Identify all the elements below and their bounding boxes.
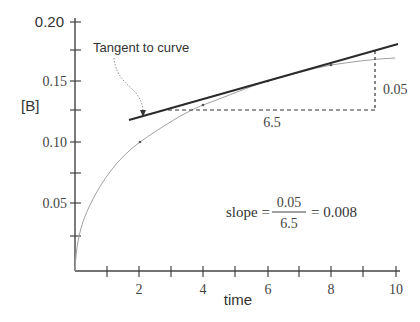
slope-numerator: 0.05 bbox=[277, 195, 302, 210]
x-tick-label-6: 6 bbox=[265, 282, 272, 297]
run-label: 6.5 bbox=[263, 115, 281, 130]
x-tick-label-4: 4 bbox=[200, 282, 207, 297]
y-axis-label: [B] bbox=[21, 97, 39, 114]
slope-prefix: slope = bbox=[226, 204, 270, 220]
slope-denominator: 6.5 bbox=[280, 216, 298, 231]
slope-result: = 0.008 bbox=[311, 204, 357, 220]
y-tick-label-0.05: 0.05 bbox=[43, 196, 68, 211]
x-tick-label-2: 2 bbox=[136, 282, 143, 297]
tangent-line bbox=[129, 44, 398, 120]
tangent-pointer-arrow-shaft bbox=[114, 58, 143, 112]
tangent-annotation: Tangent to curve bbox=[93, 40, 189, 55]
rise-label: 0.05 bbox=[383, 82, 408, 97]
y-tick-label-0.20: 0.20 bbox=[35, 13, 64, 30]
y-tick-label-0.15: 0.15 bbox=[43, 74, 68, 89]
y-tick-label-0.10: 0.10 bbox=[43, 135, 68, 150]
chart-figure: 0.20 0.15 0.10 0.05 2 4 6 8 10 [B] time … bbox=[0, 0, 420, 322]
x-tick-label-10: 10 bbox=[389, 282, 403, 297]
curve-markers bbox=[139, 64, 333, 144]
x-tick-label-8: 8 bbox=[328, 282, 335, 297]
x-axis-label: time bbox=[224, 291, 252, 308]
chart-svg: 0.20 0.15 0.10 0.05 2 4 6 8 10 [B] time … bbox=[0, 0, 420, 322]
